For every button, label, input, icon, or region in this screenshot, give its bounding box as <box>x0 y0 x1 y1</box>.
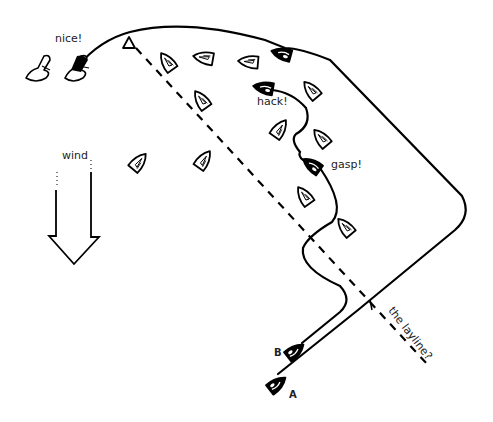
boat-white <box>310 126 332 149</box>
race-diagram <box>0 0 493 422</box>
label-boat-a: A <box>289 390 297 400</box>
boat-black-gasp <box>300 154 323 176</box>
label-hack: hack! <box>257 96 288 107</box>
boat-rounding-white <box>26 56 50 82</box>
boat-white <box>190 88 212 111</box>
boat-a <box>266 373 289 395</box>
label-gasp: gasp! <box>331 159 362 170</box>
boat-white <box>334 215 356 238</box>
label-boat-b: B <box>274 348 282 358</box>
boat-white <box>293 184 315 207</box>
boat-white <box>192 50 214 66</box>
boat-white <box>300 78 322 101</box>
boat-white <box>238 55 259 69</box>
boat-white <box>193 148 215 171</box>
label-nice: nice! <box>55 33 82 44</box>
boat-white <box>269 117 291 140</box>
boat-white <box>128 150 150 173</box>
layline-crossing-tick <box>370 300 372 310</box>
boat-black-hack <box>252 80 274 96</box>
boat-white <box>156 50 178 73</box>
boat-b <box>284 340 307 362</box>
label-wind: wind <box>62 150 88 161</box>
mark-triangle-icon <box>123 37 135 48</box>
boat-rounding-black <box>65 56 89 82</box>
wind-arrow-icon <box>49 160 99 264</box>
